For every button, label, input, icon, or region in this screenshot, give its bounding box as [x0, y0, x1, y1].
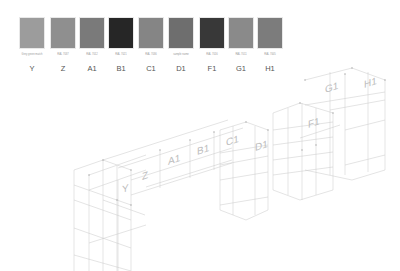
unit-label-z: Z	[142, 169, 148, 182]
unit-label-f1: F1	[308, 115, 320, 130]
left-tower-wireframe	[74, 155, 146, 271]
unit-label-b1: B1	[197, 142, 210, 157]
unit-label-g1: G1	[325, 80, 339, 95]
isometric-wireframe-drawing: YZA1B1C1D1F1G1H1	[0, 0, 400, 271]
unit-label-d1: D1	[255, 138, 268, 153]
unit-label-y: Y	[122, 182, 129, 195]
unit-label-c1: C1	[226, 133, 239, 148]
unit-label-h1: H1	[364, 75, 377, 90]
